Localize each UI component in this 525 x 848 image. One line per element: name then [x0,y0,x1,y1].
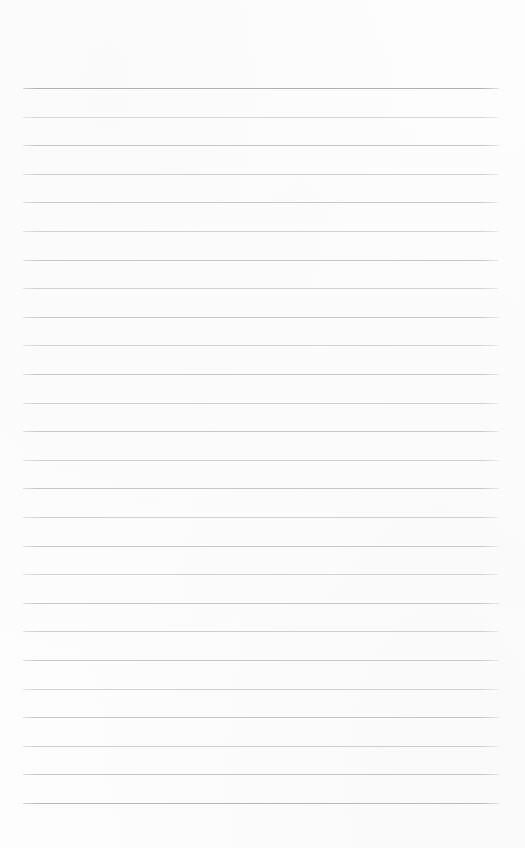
writing-area[interactable] [23,88,499,803]
ruled-notepad-page [0,0,525,848]
rule-line [23,803,499,804]
